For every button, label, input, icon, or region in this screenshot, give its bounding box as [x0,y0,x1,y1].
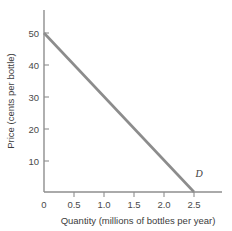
y-tick-label-40: 40 [28,60,39,71]
chart-canvas: 50 40 30 20 10 0 0.5 1.0 1.5 2.0 2.5 D P… [0,0,232,231]
y-tick-label-50: 50 [28,28,39,39]
x-axis-title: Quantity (millions of bottles per year) [61,215,216,226]
x-tick-label-2-5: 2.5 [187,199,200,210]
demand-curve-label: D [194,168,203,179]
y-tick-label-30: 30 [28,92,39,103]
x-tick-label-1-0: 1.0 [97,199,110,210]
y-tick-label-10: 10 [28,156,39,167]
y-axis-title: Price (cents per bottle) [5,53,16,149]
x-tick-label-0: 0 [41,199,46,210]
demand-curve-line [44,33,194,192]
demand-curve-chart: 50 40 30 20 10 0 0.5 1.0 1.5 2.0 2.5 D P… [0,0,232,231]
x-tick-label-0-5: 0.5 [67,199,80,210]
y-tick-label-20: 20 [28,124,39,135]
x-tick-label-2-0: 2.0 [157,199,170,210]
x-tick-label-1-5: 1.5 [127,199,140,210]
